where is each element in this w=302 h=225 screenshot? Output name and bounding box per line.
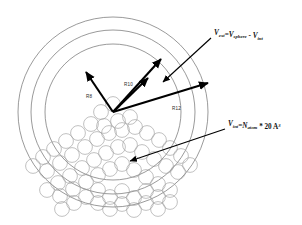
atom [65, 148, 80, 163]
shell-label-r12: R12 [172, 106, 181, 111]
atom [94, 105, 109, 120]
atom [115, 123, 130, 138]
v-int-annotation-text: Vint=Natom * 20 A3 [228, 120, 281, 131]
atom [66, 182, 81, 197]
shell-label-r8: R8 [86, 94, 92, 99]
atom-cluster [26, 97, 198, 218]
atom [102, 126, 117, 141]
atom [26, 159, 41, 174]
atom [163, 195, 178, 210]
diagram-svg: R8R10R12 Vext=Vsphere - VintVint=Natom *… [0, 0, 302, 225]
figure-canvas: R8R10R12 Vext=Vsphere - VintVint=Natom *… [0, 0, 302, 225]
atom [53, 189, 68, 204]
atom [55, 202, 70, 217]
atom [40, 183, 55, 198]
v-ext-annotation-text: Vext=Vsphere - Vint [214, 29, 263, 41]
atom [40, 164, 55, 179]
radius-arrows [86, 59, 208, 112]
shell-label-r10: R10 [124, 82, 133, 87]
atom [84, 117, 99, 132]
v-ext-annotation-leader [163, 38, 211, 82]
